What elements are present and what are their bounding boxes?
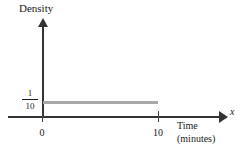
x-tick-label-0: 0 xyxy=(34,127,50,138)
x-tick-mark-0 xyxy=(42,111,43,122)
x-axis-title-line-1: Time xyxy=(177,119,215,132)
x-axis-line xyxy=(8,116,223,118)
fraction-denominator: 10 xyxy=(20,101,40,111)
fraction-bar xyxy=(22,99,38,100)
x-axis-variable-label: x xyxy=(230,106,234,118)
x-axis-title: Time (minutes) xyxy=(177,119,215,145)
x-axis-arrowhead-icon xyxy=(219,111,228,123)
y-axis-title: Density xyxy=(19,2,53,15)
y-axis-line xyxy=(42,26,44,118)
uniform-density-segment xyxy=(43,101,158,104)
density-plot-figure: Density 0 10 1 10 x Time (minutes) xyxy=(0,0,243,158)
x-tick-mark-10 xyxy=(158,111,159,122)
fraction-numerator: 1 xyxy=(20,88,40,98)
x-axis-title-line-2: (minutes) xyxy=(177,132,215,145)
y-tick-label-one-tenth: 1 10 xyxy=(20,88,40,111)
x-tick-label-10: 10 xyxy=(150,127,166,138)
